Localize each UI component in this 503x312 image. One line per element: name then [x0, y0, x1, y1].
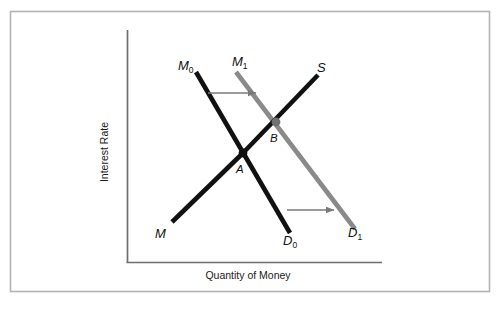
curve-label-m0-base: M	[178, 58, 189, 73]
point-label-b: B	[270, 132, 278, 144]
money-market-diagram: Quantity of Money Interest Rate M0 M1 S …	[0, 0, 503, 312]
equilibrium-point-a	[239, 149, 248, 158]
curve-label-m-base: M	[155, 226, 166, 241]
curve-label-d1-sub: 1	[357, 232, 362, 242]
curve-label-d0-sub: 0	[292, 240, 297, 250]
curve-label-s: S	[317, 60, 326, 75]
curve-label-m: M	[155, 226, 166, 241]
curve-label-m1-sub: 1	[243, 61, 248, 71]
curve-label-s-base: S	[317, 60, 326, 75]
equilibrium-point-b	[272, 118, 281, 127]
figure-container: Quantity of Money Interest Rate M0 M1 S …	[0, 0, 503, 312]
curve-label-d1-base: D	[348, 225, 357, 240]
figure-background	[0, 0, 503, 312]
x-axis-title: Quantity of Money	[205, 269, 291, 281]
y-axis-title: Interest Rate	[98, 122, 110, 182]
curve-label-d0-base: D	[283, 233, 292, 248]
curve-label-m0-sub: 0	[189, 65, 194, 75]
point-label-a: A	[235, 163, 244, 175]
curve-label-m1-base: M	[232, 54, 243, 69]
